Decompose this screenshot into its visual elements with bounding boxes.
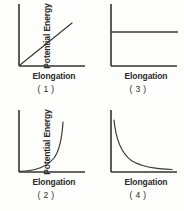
figure-sheet: Potential Energy Elongation ( 1 ) Potent… [0, 0, 184, 211]
y-axis-label: Potential Energy [41, 2, 53, 70]
y-axis-label: Potential Energy [41, 108, 53, 176]
x-axis-label: Elongation [18, 177, 90, 187]
graph-constant [98, 2, 178, 72]
x-axis-label: Elongation [18, 71, 90, 81]
choice-3[interactable]: Potential Energy Elongation ( 3 ) [92, 0, 184, 105]
data-curve-inverse [114, 120, 172, 170]
choice-caption-4: ( 4 ) [92, 190, 184, 200]
choice-4[interactable]: Potential Energy Elongation ( 4 ) [92, 106, 184, 211]
plot-area-3: Potential Energy Elongation [98, 2, 178, 72]
x-axis-label: Elongation [110, 177, 182, 187]
choice-caption-1: ( 1 ) [0, 84, 92, 94]
choice-caption-2: ( 2 ) [0, 190, 92, 200]
x-axis-label: Elongation [110, 71, 182, 81]
graph-inverse [98, 108, 178, 178]
choice-caption-3: ( 3 ) [92, 84, 184, 94]
plot-area-4: Potential Energy Elongation [98, 108, 178, 178]
